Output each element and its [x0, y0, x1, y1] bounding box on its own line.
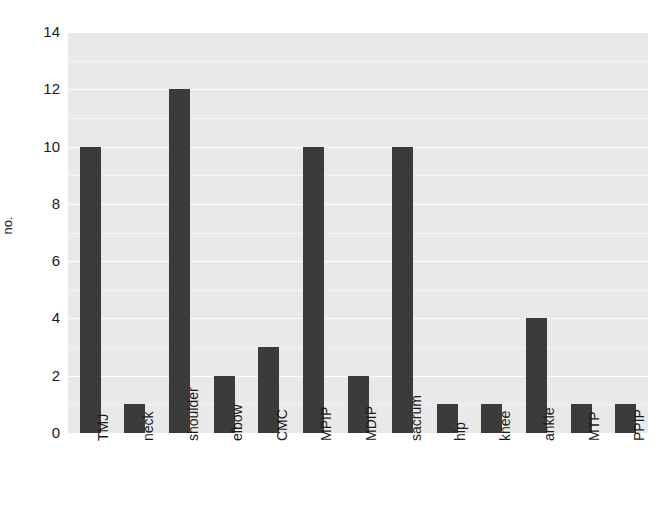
x-tick-label-MPIP: MPIP: [319, 407, 333, 441]
y-axis-title: no.: [0, 196, 15, 256]
x-tick-label-MDIP: MDIP: [364, 406, 378, 441]
gridline: [68, 89, 648, 90]
gridline: [68, 61, 648, 62]
y-axis-tick-labels: 02468101214: [24, 0, 60, 518]
x-tick-label-knee: knee: [498, 411, 512, 441]
gridline: [68, 261, 648, 262]
bar-TMJ: [80, 147, 101, 433]
x-axis-tick-labels: TMJneckshoulderelbowCMCMPIPMDIPsacrumhip…: [68, 433, 648, 518]
gridline: [68, 118, 648, 119]
gridline: [68, 347, 648, 348]
bar-shoulder: [169, 89, 190, 433]
y-tick-label: 6: [28, 253, 60, 268]
x-tick-label-neck: neck: [141, 411, 155, 441]
gridline: [68, 233, 648, 234]
x-tick-label-hip: hip: [453, 422, 467, 441]
gridline: [68, 290, 648, 291]
bar-chart: no. 02468101214 TMJneckshoulderelbowCMCM…: [0, 0, 667, 518]
y-tick-label: 2: [28, 368, 60, 383]
x-tick-label-shoulder: shoulder: [186, 387, 200, 441]
gridline: [68, 204, 648, 205]
y-tick-label: 12: [28, 81, 60, 96]
x-tick-label-TMJ: TMJ: [96, 414, 110, 441]
x-tick-label-PPIP: PPIP: [632, 409, 646, 441]
gridline: [68, 147, 648, 148]
y-tick-label: 14: [28, 24, 60, 39]
gridline: [68, 32, 648, 33]
x-tick-label-sacrum: sacrum: [409, 395, 423, 441]
x-tick-label-CMC: CMC: [275, 409, 289, 441]
y-tick-label: 10: [28, 139, 60, 154]
plot-area: [68, 32, 648, 433]
x-tick-label-ankle: ankle: [542, 408, 556, 441]
x-tick-label-MTP: MTP: [587, 411, 601, 441]
y-tick-label: 4: [28, 310, 60, 325]
bar-MPIP: [303, 147, 324, 433]
gridline: [68, 318, 648, 319]
y-tick-label: 8: [28, 196, 60, 211]
y-tick-label: 0: [28, 425, 60, 440]
bar-sacrum: [392, 147, 413, 433]
gridline: [68, 175, 648, 176]
x-tick-label-elbow: elbow: [230, 404, 244, 441]
